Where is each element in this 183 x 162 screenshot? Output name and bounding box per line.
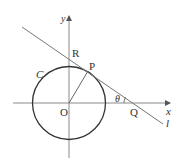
origin-label: O: [60, 106, 68, 118]
radius-op: [69, 71, 88, 103]
y-axis-label: y: [60, 13, 66, 24]
circle-label: C: [36, 68, 44, 80]
point-r-label: R: [72, 47, 80, 59]
angle-theta-arc: [124, 97, 126, 103]
x-axis-label: x: [165, 105, 171, 117]
point-p-label: P: [89, 60, 95, 72]
line-l-label: l: [166, 117, 169, 129]
angle-theta-label: θ: [115, 93, 120, 104]
point-q-label: Q: [130, 106, 138, 118]
diagram-canvas: y x O C P R Q θ l: [0, 0, 183, 162]
